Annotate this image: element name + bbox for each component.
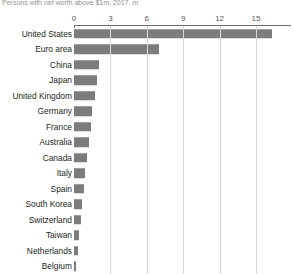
bar-germany xyxy=(74,107,92,117)
category-label-australia: Australia xyxy=(39,137,72,147)
bar-united-kingdom xyxy=(74,91,95,101)
category-label-euro-area: Euro area xyxy=(35,44,72,54)
category-label-spain: Spain xyxy=(51,184,72,194)
category-label-canada: Canada xyxy=(43,153,72,163)
bar-netherlands xyxy=(74,246,78,256)
bar-japan xyxy=(74,76,97,86)
category-label-belgium: Belgium xyxy=(42,261,72,271)
x-tick-label-6: 6 xyxy=(145,14,149,24)
gridline-15 xyxy=(256,26,257,274)
bar-switzerland xyxy=(74,215,81,225)
category-label-italy: Italy xyxy=(57,168,72,178)
bar-spain xyxy=(74,184,84,194)
bar-united-states xyxy=(74,29,272,39)
category-label-taiwan: Taiwan xyxy=(46,230,72,240)
category-label-france: France xyxy=(46,122,72,132)
x-tick-label-0: 0 xyxy=(72,14,76,24)
bar-italy xyxy=(74,169,85,179)
bar-china xyxy=(74,60,99,70)
x-tick-label-3: 3 xyxy=(108,14,112,24)
chart-title: Persons with net worth above $1m, 2017, … xyxy=(2,0,138,7)
x-tick-label-12: 12 xyxy=(215,14,224,24)
category-label-united-states: United States xyxy=(22,29,72,39)
category-label-germany: Germany xyxy=(38,106,72,116)
bar-belgium xyxy=(74,262,76,272)
bar-south-korea xyxy=(74,200,82,210)
bar-taiwan xyxy=(74,231,79,241)
bar-australia xyxy=(74,138,89,148)
bar-france xyxy=(74,122,91,132)
x-tick-label-15: 15 xyxy=(252,14,261,24)
x-tick-label-9: 9 xyxy=(181,14,185,24)
gridline-9 xyxy=(183,26,184,274)
category-label-united-kingdom: United Kingdom xyxy=(12,91,72,101)
category-label-netherlands: Netherlands xyxy=(27,246,72,256)
gridline-6 xyxy=(147,26,148,274)
category-label-south-korea: South Korea xyxy=(25,199,72,209)
bar-chart: Persons with net worth above $1m, 2017, … xyxy=(0,0,294,276)
x-tick-mark-0 xyxy=(74,25,75,28)
gridline-12 xyxy=(220,26,221,274)
category-label-switzerland: Switzerland xyxy=(29,215,72,225)
gridline-3 xyxy=(110,26,111,274)
category-label-china: China xyxy=(50,60,72,70)
category-label-japan: Japan xyxy=(49,75,72,85)
bar-canada xyxy=(74,153,87,163)
